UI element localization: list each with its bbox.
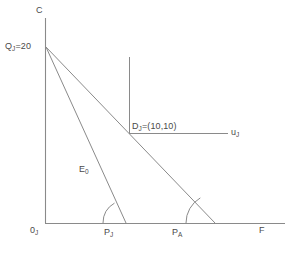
endowment-label-subscript: 0 [85,168,89,175]
axis-label-f: F [259,226,265,235]
origin-label: 0J [30,226,38,235]
demand-point-label-base: D [132,121,139,131]
shallow-budget-line [46,47,215,223]
steep-budget-line [46,47,126,223]
demand-point-label: DJ=(10,10) [132,122,177,131]
endowment-label: E0 [79,165,89,174]
intercept-label-value: =20 [15,41,31,51]
demand-point-label-value: =(10,10) [142,121,177,131]
utility-curve-label: uJ [231,128,239,137]
figure-canvas: C F 0J QJ=20 DJ=(10,10) uJ E0 PJ PA [0,0,299,257]
utility-curve-label-subscript: J [236,131,239,138]
angle-arc-pj [103,203,115,223]
intercept-label: QJ=20 [5,42,31,51]
origin-label-subscript: J [35,229,38,236]
price-point-a-label-subscript: A [178,231,182,238]
price-point-a-label: PA [172,228,183,237]
axis-label-c: C [36,6,43,15]
angle-arc-pa [186,198,200,223]
price-point-j-label: PJ [104,228,113,237]
intercept-label-subscript: J [12,45,15,52]
price-point-j-label-subscript: J [110,231,113,238]
demand-point-label-subscript: J [139,125,142,132]
